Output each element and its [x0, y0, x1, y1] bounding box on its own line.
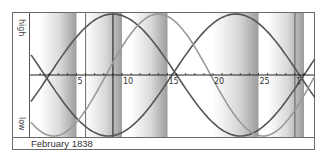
- y-label-high: high: [17, 19, 26, 36]
- x-tick-label: 15: [169, 77, 179, 86]
- x-tick-label: 20: [214, 77, 224, 86]
- chart-frame: high low 5101520251 February 1838: [12, 12, 315, 150]
- footer: February 1838: [13, 137, 314, 150]
- plot-area: 5101520251: [30, 13, 315, 137]
- footer-caption: February 1838: [31, 138, 93, 149]
- x-tick-label: 10: [123, 77, 133, 86]
- x-tick-label: 1: [296, 77, 301, 86]
- chart-svg: 5101520251: [30, 13, 315, 137]
- y-label-low: low: [17, 117, 26, 131]
- x-tick-label: 25: [260, 77, 270, 86]
- y-label-column: high low: [13, 13, 30, 137]
- x-tick-label: 5: [78, 77, 83, 86]
